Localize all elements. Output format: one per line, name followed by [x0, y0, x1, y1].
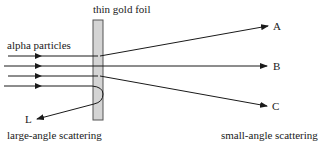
path-a-line	[100, 26, 268, 56]
scattering-diagram: thin gold foil alpha particles A B C L l…	[0, 0, 328, 145]
label-c: C	[272, 100, 279, 112]
path-c-line	[100, 76, 267, 106]
label-b: B	[273, 60, 280, 72]
label-a: A	[273, 20, 281, 32]
label-l: L	[25, 113, 32, 125]
foil-label: thin gold foil	[93, 3, 150, 15]
incoming-arrowheads	[35, 53, 42, 89]
large-angle-label: large-angle scattering	[7, 129, 102, 141]
alpha-particles-label: alpha particles	[7, 39, 71, 51]
small-angle-label: small-angle scattering	[221, 129, 318, 141]
gold-foil	[93, 20, 103, 120]
incoming-beams	[4, 56, 98, 86]
